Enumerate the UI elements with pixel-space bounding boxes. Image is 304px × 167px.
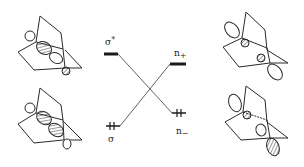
- molecule-n-plus: [222, 12, 288, 83]
- label-sigma: σ: [108, 135, 114, 144]
- correlation-lines: [118, 54, 172, 126]
- mo-diagram: [0, 0, 304, 167]
- molecule-n-minus: [225, 86, 288, 158]
- label-n-minus: n−: [176, 127, 189, 136]
- label-n-plus: n+: [174, 49, 187, 58]
- label-sigma-star: σ*: [105, 38, 115, 47]
- lobe-small: [25, 31, 35, 41]
- molecule-sigma: [18, 88, 82, 149]
- molecule-sigma-star: [18, 16, 82, 75]
- energy-levels: [104, 54, 186, 130]
- lobe-small-hatched: [62, 67, 70, 75]
